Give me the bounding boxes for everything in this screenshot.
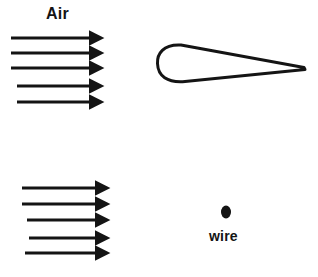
lower-airflow-arrows <box>22 188 96 253</box>
wire-label: wire <box>209 229 238 243</box>
airflow-diagram: Air wire <box>0 0 318 277</box>
air-label: Air <box>46 6 69 22</box>
wire-dot-icon <box>221 206 231 219</box>
airfoil-outline-icon <box>157 45 305 82</box>
wire-dot <box>221 206 231 219</box>
airfoil-outline <box>157 45 305 82</box>
diagram-canvas <box>0 0 318 277</box>
upper-airflow-arrows <box>11 38 90 102</box>
